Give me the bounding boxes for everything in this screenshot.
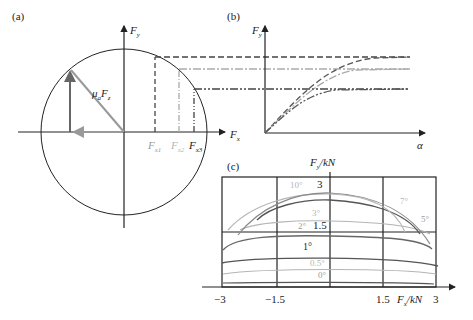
x-tick-1_5: 1.5 — [376, 293, 390, 305]
panel-b-label: (b) — [227, 10, 240, 23]
label-0_5deg: 0.5° — [310, 258, 325, 268]
x-axis-a-label: Fx — [229, 128, 241, 143]
x-tick-neg1_5: −1.5 — [265, 293, 285, 305]
curve-fx2 — [265, 69, 408, 133]
y-axis-b-label: Fy — [251, 24, 263, 39]
x-axis-c-label: Fx/kN — [396, 293, 423, 308]
label-2deg: 2° — [298, 221, 307, 231]
y-tick-3: 3 — [317, 178, 323, 190]
x-axis-b-label: α — [417, 139, 423, 151]
curve-0deg — [223, 282, 434, 284]
label-1deg: 1° — [303, 241, 312, 252]
y-axis-a-label: Fy — [129, 24, 141, 39]
panel-b: (b) Fy α — [227, 10, 425, 151]
figure: (a) Fy Fx μaFz Fx1 Fx2 Fx3 (b) Fy α — [0, 0, 473, 320]
y-axis-c-label: Fy/kN — [309, 156, 336, 171]
tick-fx3: Fx3 — [188, 139, 203, 154]
panel-c-label: (c) — [227, 160, 240, 173]
label-7deg: 7° — [400, 196, 409, 206]
label-10deg: 10° — [290, 180, 303, 190]
tick-fx2: Fx2 — [170, 139, 185, 154]
label-5deg: 5° — [421, 214, 430, 224]
curve-2deg — [223, 236, 432, 250]
vector-label: μaFz — [91, 87, 111, 102]
y-tick-1_5: 1.5 — [313, 219, 327, 231]
tick-fx1: Fx1 — [147, 139, 161, 154]
label-3deg: 3° — [312, 208, 321, 218]
x-tick-3: 3 — [433, 293, 439, 305]
panel-a-label: (a) — [12, 10, 25, 23]
label-0deg: 0° — [318, 270, 327, 280]
panel-c: (c) Fy/kN 10° 7° 5° 3° 2° 1° 0.5° 0° 3 1… — [202, 156, 455, 308]
x-tick-neg3: −3 — [214, 293, 226, 305]
